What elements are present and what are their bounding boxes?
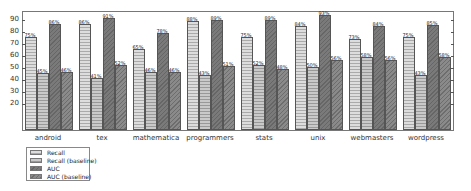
right-tick-mark	[451, 80, 454, 81]
x-tick-label: mathematica	[126, 134, 186, 142]
bar-wordpress-recall-baseline	[415, 75, 427, 130]
bar-stats-recall	[241, 37, 253, 130]
legend: Recall Recall (baseline) AUC AUC (baseli…	[26, 147, 90, 181]
y-tick-mark	[22, 44, 25, 45]
y-tick-mark	[22, 80, 25, 81]
bar-value-label: 75%	[396, 32, 420, 38]
bar-value-label: 65%	[126, 44, 150, 50]
y-tick-label: 30	[0, 87, 19, 95]
y-tick-label: 70	[0, 39, 19, 47]
bar-value-label: 48%	[270, 64, 294, 70]
bar-value-label: 45%	[30, 68, 54, 74]
right-tick-mark	[451, 32, 454, 33]
bar-unix-auc-baseline	[331, 60, 343, 130]
x-tick-label: programmers	[180, 134, 240, 142]
legend-swatch-recall	[30, 150, 42, 155]
y-tick-label: 50	[0, 63, 19, 71]
bar-android-auc	[49, 24, 61, 130]
bar-value-label: 85%	[420, 20, 444, 26]
legend-swatch-auc	[30, 166, 42, 171]
bar-value-label: 41%	[84, 73, 108, 79]
bar-android-recall	[25, 37, 37, 130]
bar-value-label: 75%	[18, 32, 42, 38]
right-tick-mark	[451, 68, 454, 69]
bar-value-label: 73%	[342, 34, 366, 40]
bar-android-auc-baseline	[61, 72, 73, 130]
bar-value-label: 78%	[150, 28, 174, 34]
bar-value-label: 56%	[378, 55, 402, 61]
bar-value-label: 89%	[204, 15, 228, 21]
bar-value-label: 43%	[192, 70, 216, 76]
y-tick-mark	[22, 20, 25, 21]
right-tick-mark	[451, 104, 454, 105]
bar-wordpress-recall	[403, 37, 415, 130]
bar-mathematica-auc	[157, 33, 169, 130]
bar-value-label: 93%	[312, 10, 336, 16]
x-tick-label: stats	[234, 134, 294, 142]
bar-wordpress-auc-baseline	[439, 57, 451, 130]
y-tick-mark	[22, 104, 25, 105]
bar-unix-recall-baseline	[307, 67, 319, 130]
bar-tex-recall-baseline	[91, 78, 103, 130]
right-tick-mark	[451, 44, 454, 45]
bar-webmasters-auc	[373, 26, 385, 130]
bar-value-label: 86%	[72, 19, 96, 25]
bar-stats-auc-baseline	[277, 69, 289, 130]
x-tick-label: tex	[72, 134, 132, 142]
bar-mathematica-auc-baseline	[169, 72, 181, 130]
right-tick-mark	[451, 20, 454, 21]
bar-unix-recall	[295, 26, 307, 130]
y-tick-label: 80	[0, 27, 19, 35]
legend-item-auc-baseline: AUC (baseline)	[30, 173, 91, 180]
x-tick-label: unix	[288, 134, 348, 142]
bar-mathematica-recall-baseline	[145, 72, 157, 130]
bar-value-label: 75%	[234, 32, 258, 38]
plot-area	[22, 11, 454, 131]
y-tick-mark	[22, 92, 25, 93]
bar-value-label: 58%	[432, 52, 456, 58]
bar-value-label: 43%	[408, 70, 432, 76]
y-tick-mark	[22, 68, 25, 69]
bar-value-label: 51%	[216, 61, 240, 67]
bar-stats-recall-baseline	[253, 65, 265, 130]
y-tick-label: 40	[0, 75, 19, 83]
bar-unix-auc	[319, 15, 331, 130]
bar-webmasters-auc-baseline	[385, 60, 397, 130]
bar-webmasters-recall-baseline	[361, 57, 373, 130]
bar-value-label: 91%	[96, 13, 120, 19]
bar-value-label: 86%	[42, 19, 66, 25]
bar-tex-auc-baseline	[115, 65, 127, 130]
bar-value-label: 89%	[258, 15, 282, 21]
legend-swatch-auc-baseline	[30, 174, 42, 179]
legend-swatch-recall-baseline	[30, 158, 42, 163]
bar-programmers-recall-baseline	[199, 75, 211, 130]
legend-item-auc: AUC	[30, 165, 60, 172]
bar-value-label: 46%	[54, 67, 78, 73]
y-tick-label: 20	[0, 99, 19, 107]
bar-value-label: 46%	[138, 67, 162, 73]
bar-wordpress-auc	[427, 25, 439, 130]
bar-mathematica-recall	[133, 49, 145, 130]
bar-value-label: 52%	[108, 60, 132, 66]
bar-value-label: 52%	[246, 60, 270, 66]
bar-android-recall-baseline	[37, 73, 49, 130]
x-tick-label: webmasters	[342, 134, 402, 142]
y-tick-label: 60	[0, 51, 19, 59]
y-tick-mark	[22, 56, 25, 57]
y-tick-label: 90	[0, 15, 19, 23]
bar-value-label: 56%	[324, 55, 348, 61]
bar-programmers-auc-baseline	[223, 66, 235, 130]
x-tick-label: android	[18, 134, 78, 142]
legend-item-recall: Recall	[30, 149, 65, 156]
bar-stats-auc	[265, 20, 277, 130]
bar-value-label: 84%	[288, 21, 312, 27]
bar-value-label: 88%	[180, 16, 204, 22]
bar-value-label: 84%	[366, 21, 390, 27]
legend-item-recall-baseline: Recall (baseline)	[30, 157, 97, 164]
x-tick-label: wordpress	[396, 134, 456, 142]
bar-value-label: 58%	[354, 52, 378, 58]
bar-value-label: 50%	[300, 62, 324, 68]
bar-value-label: 46%	[162, 67, 186, 73]
right-tick-mark	[451, 92, 454, 93]
